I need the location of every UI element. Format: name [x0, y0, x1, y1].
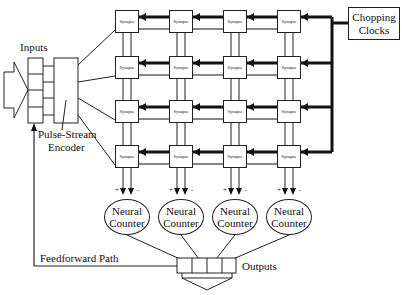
output-arrow-icon: [182, 273, 232, 290]
synapse-r4c4: Synapse: [277, 145, 301, 168]
counter-label-line2: Counter: [267, 217, 311, 229]
synapse-r2c2: Synapse: [169, 56, 193, 79]
clock-label-line1: Chopping: [349, 11, 399, 24]
counter-label-line1: Neural: [267, 205, 311, 217]
synapse-r1c4: Synapse: [277, 10, 301, 33]
synapse-r4c1: Synapse: [115, 145, 139, 168]
minus-sign: -: [191, 187, 193, 194]
synapse-r2c3: Synapse: [223, 56, 247, 79]
minus-sign: -: [137, 187, 139, 194]
synapse-r4c3: Synapse: [223, 145, 247, 168]
synapse-r1c3: Synapse: [223, 10, 247, 33]
plus-sign: +: [223, 187, 227, 194]
synapse-r1c2: Synapse: [169, 10, 193, 33]
neural-counter-1: Neural Counter: [104, 199, 150, 235]
synapse-r2c4: Synapse: [277, 56, 301, 79]
inputs-label: Inputs: [20, 41, 48, 53]
synapse-r3c4: Synapse: [277, 100, 301, 123]
plus-sign: +: [169, 187, 173, 194]
counter-label-line1: Neural: [213, 205, 257, 217]
clock-label-line2: Clocks: [349, 24, 399, 37]
neural-counter-2: Neural Counter: [158, 199, 204, 235]
neural-counter-4: Neural Counter: [266, 199, 312, 235]
synapse-r2c1: Synapse: [115, 56, 139, 79]
input-arrow-icon: [4, 62, 28, 118]
synapse-r1c1: Synapse: [115, 10, 139, 33]
synapse-r4c2: Synapse: [169, 145, 193, 168]
counter-label-line2: Counter: [105, 217, 149, 229]
encoder-label-line1: Pulse-Stream: [38, 128, 97, 140]
plus-sign: +: [277, 187, 281, 194]
counter-label-line2: Counter: [159, 217, 203, 229]
feedforward-label: Feedforward Path: [40, 252, 119, 264]
counter-label-line1: Neural: [159, 205, 203, 217]
synapse-r3c1: Synapse: [115, 100, 139, 123]
synapse-r3c3: Synapse: [223, 100, 247, 123]
neural-counter-3: Neural Counter: [212, 199, 258, 235]
plus-sign: +: [115, 187, 119, 194]
encoder-label-line2: Encoder: [48, 141, 85, 153]
outputs-label: Outputs: [242, 260, 277, 272]
synapse-r3c2: Synapse: [169, 100, 193, 123]
counter-label-line1: Neural: [105, 205, 149, 217]
minus-sign: -: [245, 187, 247, 194]
minus-sign: -: [299, 187, 301, 194]
chopping-clocks-box: Chopping Clocks: [348, 7, 400, 40]
counter-label-line2: Counter: [213, 217, 257, 229]
